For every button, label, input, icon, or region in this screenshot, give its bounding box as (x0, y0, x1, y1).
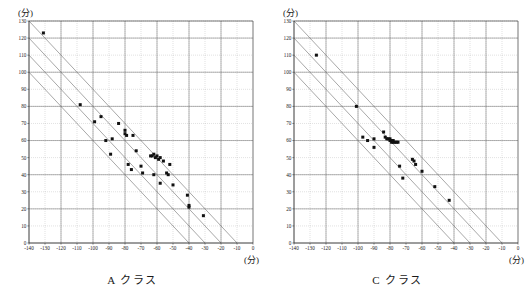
data-point (79, 103, 82, 106)
data-point (152, 153, 155, 156)
y-tick-label: 110 (284, 52, 292, 58)
y-tick-label: 110 (19, 52, 27, 58)
reference-lines-a (29, 21, 253, 243)
data-point (125, 134, 128, 137)
y-tick-label: 130 (284, 18, 292, 24)
data-point (382, 131, 385, 134)
scatter-plot-a: 0102030405060708090100110120130-140-130-… (0, 12, 265, 254)
x-tick-label: -10 (234, 245, 241, 251)
x-tick-label: -50 (435, 245, 442, 251)
gridlines-a (29, 21, 253, 243)
tick-labels-c: 0102030405060708090100110120130-140-130-… (284, 18, 520, 251)
x-tick-label: -100 (353, 245, 363, 251)
y-tick-label: 60 (286, 137, 292, 143)
x-tick-label: -40 (186, 245, 193, 251)
y-tick-label: 20 (21, 206, 27, 212)
data-point (130, 168, 133, 171)
data-point (117, 122, 120, 125)
x-tick-label: -70 (138, 245, 145, 251)
x-tick-label: -20 (218, 245, 225, 251)
data-point (168, 163, 171, 166)
data-point (397, 141, 400, 144)
y-tick-label: 100 (19, 69, 27, 75)
x-tick-label: -120 (321, 245, 331, 251)
chart-caption-c: C クラス (265, 271, 530, 287)
tick-labels-a: 0102030405060708090100110120130-140-130-… (19, 18, 255, 251)
x-tick-label: -40 (451, 245, 458, 251)
scatter-plot-c: 0102030405060708090100110120130-140-130-… (265, 12, 530, 254)
data-point (93, 120, 96, 123)
data-points-a (42, 31, 205, 217)
data-point (421, 170, 424, 173)
x-tick-label: 0 (252, 245, 255, 251)
y-tick-label: 50 (21, 155, 27, 161)
x-tick-label: -80 (387, 245, 394, 251)
data-point (413, 160, 416, 163)
x-tick-label: -130 (40, 245, 50, 251)
scatter-plot-a-svg: 0102030405060708090100110120130-140-130-… (0, 12, 265, 254)
x-tick-label: -100 (88, 245, 98, 251)
y-tick-label: 10 (286, 223, 292, 229)
data-point (100, 115, 103, 118)
data-point (366, 139, 369, 142)
data-point (156, 154, 159, 157)
data-point (172, 183, 175, 186)
data-point (42, 31, 45, 34)
x-tick-label: -60 (154, 245, 161, 251)
data-point (315, 54, 318, 57)
y-tick-label: 40 (21, 172, 27, 178)
x-tick-label: -50 (170, 245, 177, 251)
data-point (414, 163, 417, 166)
chart-panel-c: (分) (分) 0102030405060708090100110120130-… (265, 0, 530, 292)
data-point (398, 165, 401, 168)
data-point (152, 173, 155, 176)
data-point (373, 146, 376, 149)
x-tick-label: -120 (56, 245, 66, 251)
x-tick-label: -110 (337, 245, 347, 251)
y-tick-label: 80 (21, 103, 27, 109)
x-tick-label: -90 (106, 245, 113, 251)
chart-panel-a: (分) (分) 0102030405060708090100110120130-… (0, 0, 265, 292)
data-point (355, 105, 358, 108)
data-point (448, 199, 451, 202)
data-point (104, 139, 107, 142)
x-tick-label: -20 (483, 245, 490, 251)
y-tick-label: 70 (21, 120, 27, 126)
data-point (162, 160, 165, 163)
x-tick-label: -30 (202, 245, 209, 251)
data-point (140, 165, 143, 168)
scatter-plot-c-svg: 0102030405060708090100110120130-140-130-… (265, 12, 530, 254)
reference-lines-c (294, 21, 518, 243)
x-tick-label: -130 (305, 245, 315, 251)
x-tick-label: 0 (517, 245, 520, 251)
data-point (361, 136, 364, 139)
data-point (159, 182, 162, 185)
data-point (186, 194, 189, 197)
x-axis-unit-label-a: (分) (244, 253, 259, 266)
data-point (132, 134, 135, 137)
y-tick-label: 50 (286, 155, 292, 161)
chart-caption-a: A クラス (0, 271, 265, 287)
y-tick-label: 120 (19, 35, 27, 41)
y-tick-label: 60 (21, 137, 27, 143)
x-tick-label: -10 (499, 245, 506, 251)
y-tick-label: 70 (286, 120, 292, 126)
data-points-c (315, 54, 451, 202)
data-point (111, 137, 114, 140)
y-tick-label: 40 (286, 172, 292, 178)
y-tick-label: 130 (19, 18, 27, 24)
data-point (141, 171, 144, 174)
y-tick-label: 100 (284, 69, 292, 75)
y-tick-label: 10 (21, 223, 27, 229)
data-point (202, 214, 205, 217)
y-tick-label: 90 (21, 86, 27, 92)
data-point (373, 137, 376, 140)
gridlines-c (294, 21, 518, 243)
data-point (109, 153, 112, 156)
x-tick-label: -110 (72, 245, 82, 251)
x-tick-label: -140 (24, 245, 34, 251)
data-point (433, 185, 436, 188)
x-tick-label: -30 (467, 245, 474, 251)
figure-root: (分) (分) 0102030405060708090100110120130-… (0, 0, 530, 292)
y-tick-label: 30 (286, 189, 292, 195)
